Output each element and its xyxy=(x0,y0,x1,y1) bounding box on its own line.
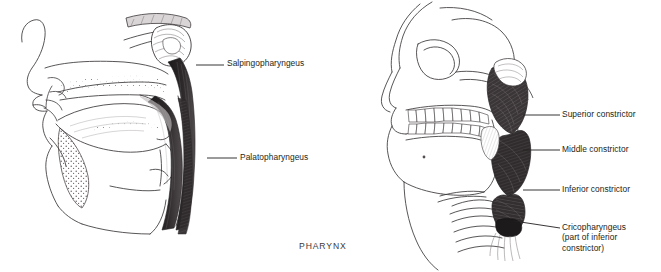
left-leader-lines xyxy=(196,65,237,158)
label-palatopharyngeus: Palatopharyngeus xyxy=(240,152,308,162)
skull-base-bar xyxy=(126,14,191,29)
label-cricopharyngeus: Cricopharyngeus (part of inferior constr… xyxy=(562,222,661,253)
tongue-papillae-texture xyxy=(94,122,164,131)
label-salpingopharyngeus: Salpingopharyngeus xyxy=(227,58,304,68)
pharynx-figure: Salpingopharyngeus Palatopharyngeus Supe… xyxy=(0,0,661,272)
label-middle-constrictor: Middle constrictor xyxy=(562,144,629,154)
mental-foramen xyxy=(423,156,426,159)
label-superior-constrictor: Superior constrictor xyxy=(562,109,636,119)
cricopharyngeus-fibers xyxy=(490,233,520,261)
figure-caption: PHARYNX xyxy=(299,241,347,251)
torus-tubarius-cartilage xyxy=(151,25,191,66)
lower-teeth xyxy=(408,123,489,138)
upper-teeth xyxy=(408,108,489,124)
salivary-gland xyxy=(58,128,88,208)
label-cricopharyngeus-line-3: constrictor) xyxy=(562,243,661,253)
label-cricopharyngeus-line-1: Cricopharyngeus xyxy=(562,222,661,232)
label-inferior-constrictor: Inferior constrictor xyxy=(562,184,630,194)
label-cricopharyngeus-line-2: (part of inferior xyxy=(562,232,661,242)
